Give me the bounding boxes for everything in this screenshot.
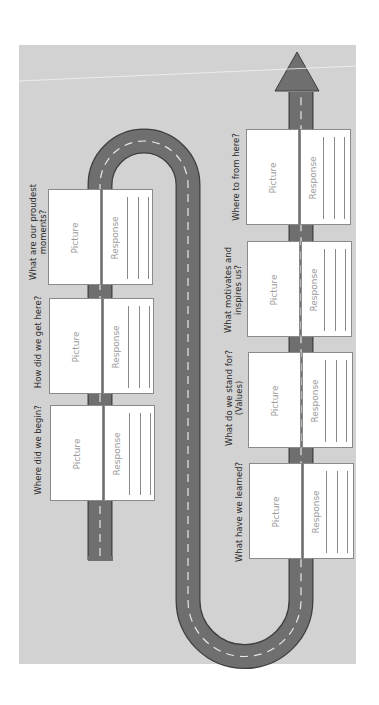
picture-box[interactable]: Picture <box>49 298 102 394</box>
response-label: Response <box>110 216 120 259</box>
response-line <box>347 471 348 553</box>
picture-box[interactable]: Picture <box>249 463 302 559</box>
response-line <box>129 413 130 495</box>
response-line <box>138 197 139 279</box>
response-line <box>344 137 345 219</box>
question-label: How did we get here? <box>33 296 43 388</box>
picture-label: Picture <box>72 439 82 470</box>
picture-label: Picture <box>70 223 80 254</box>
response-line <box>346 360 347 442</box>
response-box[interactable]: Response <box>103 298 154 394</box>
question-label: What have we learned? <box>234 462 244 562</box>
picture-label: Picture <box>269 275 279 306</box>
response-line <box>335 249 336 331</box>
question-label: What motivates and inspires us? <box>223 247 243 333</box>
picture-label: Picture <box>268 163 278 194</box>
response-box[interactable]: Response <box>303 463 354 559</box>
response-line <box>345 249 346 331</box>
response-label: Response <box>311 490 321 533</box>
response-box[interactable]: Response <box>102 189 153 285</box>
picture-label: Picture <box>270 386 280 417</box>
response-box[interactable]: Response <box>302 352 353 448</box>
response-line <box>326 471 327 553</box>
response-line <box>127 197 128 279</box>
response-label: Response <box>310 379 320 422</box>
response-line <box>148 197 149 279</box>
response-line <box>337 471 338 553</box>
response-line <box>334 137 335 219</box>
response-line <box>128 306 129 388</box>
response-line <box>325 360 326 442</box>
question-label: Where did we begin? <box>33 405 43 494</box>
picture-label: Picture <box>271 497 281 528</box>
question-label: What are our proudest moments? <box>28 184 48 280</box>
response-box[interactable]: Response <box>301 241 352 337</box>
question-label: What do we stand for? (Values) <box>224 350 244 446</box>
response-label: Response <box>308 156 318 199</box>
response-box[interactable]: Response <box>300 129 351 225</box>
picture-box[interactable]: Picture <box>50 405 103 501</box>
response-line <box>149 306 150 388</box>
arrow-up-icon <box>275 52 319 91</box>
picture-box[interactable]: Picture <box>248 352 301 448</box>
response-label: Response <box>309 268 319 311</box>
response-box[interactable]: Response <box>104 405 155 501</box>
response-label: Response <box>112 432 122 475</box>
response-line <box>324 249 325 331</box>
response-line <box>323 137 324 219</box>
picture-box[interactable]: Picture <box>247 241 300 337</box>
response-line <box>336 360 337 442</box>
response-line <box>150 413 151 495</box>
picture-box[interactable]: Picture <box>246 129 299 225</box>
response-label: Response <box>111 325 121 368</box>
picture-label: Picture <box>71 332 81 363</box>
worksheet-page: Picture Response What are our proudest m… <box>0 0 379 705</box>
question-label: Where to from here? <box>231 133 241 221</box>
response-line <box>140 413 141 495</box>
response-line <box>139 306 140 388</box>
picture-box[interactable]: Picture <box>48 189 101 285</box>
